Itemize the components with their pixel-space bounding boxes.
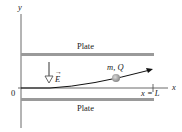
bottom-plate-label: Plate bbox=[77, 103, 94, 113]
particle bbox=[112, 74, 120, 82]
particle-label: m, Q bbox=[107, 62, 124, 72]
bottom-plate bbox=[21, 98, 154, 101]
trajectory-arrowhead-icon bbox=[146, 68, 153, 73]
origin-label: 0 bbox=[11, 88, 15, 98]
top-plate bbox=[21, 53, 154, 56]
vector-arrow-icon: → bbox=[55, 68, 62, 76]
trajectory-path bbox=[21, 70, 150, 88]
top-plate-label: Plate bbox=[77, 41, 94, 51]
field-label: → E bbox=[55, 74, 60, 84]
end-marker-label: x = L bbox=[141, 88, 160, 98]
electric-field-arrow-icon bbox=[45, 62, 53, 83]
x-axis-label: x bbox=[172, 82, 176, 92]
y-axis-label: y bbox=[18, 2, 22, 12]
